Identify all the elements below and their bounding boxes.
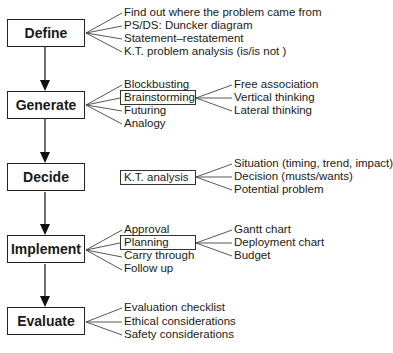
decide-sub-item: Situation (timing, trend, impact)	[234, 157, 393, 170]
define-item: Find out where the problem came from	[124, 6, 322, 19]
implement-item-planning: Planning	[120, 235, 196, 250]
stage-decide: Decide	[7, 163, 85, 191]
decide-method-kt-analysis: K.T. analysis	[120, 170, 196, 185]
implement-item: Carry through	[124, 249, 194, 262]
planning-sub-item: Deployment chart	[234, 236, 324, 249]
evaluate-item: Safety considerations	[124, 328, 234, 341]
evaluate-item: Ethical considerations	[124, 315, 236, 328]
generate-item: Futuring	[124, 104, 166, 117]
brainstorming-sub-item: Vertical thinking	[234, 91, 315, 104]
define-item: Statement–restatement	[124, 32, 244, 45]
brainstorming-sub-item: Free association	[234, 78, 318, 91]
decide-sub-item: Decision (musts/wants)	[234, 170, 353, 183]
planning-sub-item: Budget	[234, 249, 270, 262]
define-item: PS/DS: Duncker diagram	[124, 19, 252, 32]
stage-evaluate: Evaluate	[7, 307, 85, 335]
stage-generate: Generate	[7, 91, 85, 119]
decide-sub-item: Potential problem	[234, 183, 324, 196]
generate-item-brainstorming: Brainstorming	[120, 90, 196, 105]
brainstorming-sub-item: Lateral thinking	[234, 104, 312, 117]
evaluate-item: Evaluation checklist	[124, 301, 225, 314]
generate-item: Analogy	[124, 117, 166, 130]
stage-define: Define	[7, 19, 85, 47]
planning-sub-item: Gantt chart	[234, 223, 291, 236]
define-item: K.T. problem analysis (is/is not )	[124, 45, 286, 58]
implement-item: Follow up	[124, 262, 173, 275]
stage-implement: Implement	[7, 235, 85, 263]
